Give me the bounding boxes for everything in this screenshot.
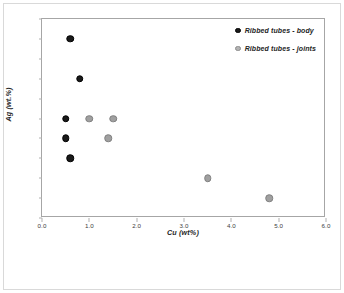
legend-marker-joints-icon — [235, 46, 241, 52]
data-point-body[interactable] — [62, 135, 70, 143]
data-point-body[interactable] — [76, 75, 84, 83]
data-point-joints[interactable] — [204, 174, 212, 182]
data-point-joints[interactable] — [86, 115, 94, 123]
x-tick-label: 1.0 — [72, 222, 106, 229]
data-point-joints[interactable] — [265, 194, 273, 202]
x-tick-mark — [184, 218, 185, 222]
x-tick-label: 2.0 — [120, 222, 154, 229]
legend-item-joints[interactable]: Ribbed tubes - joints — [235, 45, 316, 52]
data-point-joints[interactable] — [105, 135, 113, 143]
y-axis-title: Ag (wt.%) — [4, 65, 13, 145]
x-tick-mark — [136, 218, 137, 222]
plot-area: 6.46.56.66.76.86.97.07.17.27.37.4 0.01.0… — [41, 18, 325, 217]
x-tick-mark — [231, 218, 232, 222]
x-tick-mark — [42, 218, 43, 222]
x-tick-label: 3.0 — [167, 222, 201, 229]
data-point-body[interactable] — [67, 155, 75, 163]
legend-marker-body-icon — [235, 28, 241, 34]
x-axis-title: Cu (wt%) — [41, 228, 325, 237]
x-tick-label: 4.0 — [214, 222, 248, 229]
chart-legend: Ribbed tubes - body Ribbed tubes - joint… — [235, 27, 316, 52]
scatter-chart-figure: Ag (wt.%) Cu (wt%) 6.46.56.66.76.86.97.0… — [0, 0, 344, 293]
data-point-body[interactable] — [62, 115, 70, 123]
legend-label-body: Ribbed tubes - body — [245, 27, 314, 34]
x-tick-label: 0.0 — [25, 222, 59, 229]
legend-label-joints: Ribbed tubes - joints — [245, 45, 316, 52]
x-tick-mark — [89, 218, 90, 222]
x-tick-label: 5.0 — [262, 222, 296, 229]
x-tick-label: 6.0 — [309, 222, 343, 229]
x-tick-mark — [278, 218, 279, 222]
x-tick-mark — [326, 218, 327, 222]
data-point-joints[interactable] — [109, 115, 117, 123]
legend-item-body[interactable]: Ribbed tubes - body — [235, 27, 314, 34]
data-point-body[interactable] — [67, 35, 75, 43]
